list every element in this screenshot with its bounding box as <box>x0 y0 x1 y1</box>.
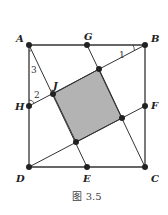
angle-1-arc <box>133 45 134 51</box>
label-C: C <box>151 173 159 184</box>
shaded-inner-square <box>53 69 122 142</box>
point-B <box>142 42 148 48</box>
point-inner-top <box>96 66 102 72</box>
figure-caption: 图 3.5 <box>72 191 101 202</box>
point-F <box>142 103 148 109</box>
label-F: F <box>150 100 159 111</box>
point-J <box>50 91 56 97</box>
point-G <box>84 42 90 48</box>
label-B: B <box>150 33 159 44</box>
label-A: A <box>15 33 24 44</box>
geometry-figure: A G B F C E D H J 1 2 3 图 3.5 <box>0 0 168 215</box>
label-G: G <box>84 31 93 42</box>
point-H <box>26 103 32 109</box>
point-C <box>142 164 148 170</box>
point-E <box>84 164 90 170</box>
angle-2-arc <box>29 100 34 103</box>
angle-label-3: 3 <box>31 65 37 75</box>
point-inner-bottom <box>73 139 79 145</box>
label-D: D <box>15 173 25 184</box>
label-J: J <box>51 80 59 91</box>
angle-label-2: 2 <box>34 90 40 100</box>
angle-label-1: 1 <box>119 50 125 60</box>
label-E: E <box>82 173 91 184</box>
point-inner-right <box>119 115 125 121</box>
label-H: H <box>14 101 25 112</box>
point-D <box>26 164 32 170</box>
point-A <box>26 42 32 48</box>
